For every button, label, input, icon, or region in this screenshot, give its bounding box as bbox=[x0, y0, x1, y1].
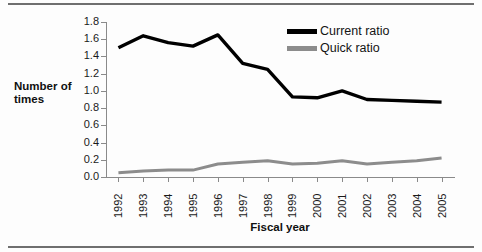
legend-item: Current ratio bbox=[287, 24, 427, 39]
y-tick-label: 1.4 bbox=[72, 50, 99, 61]
x-axis-line bbox=[106, 177, 455, 178]
x-tick-label: 1999 bbox=[286, 184, 299, 218]
legend-item: Quick ratio bbox=[287, 41, 427, 56]
x-tick-mark bbox=[218, 178, 219, 182]
x-tick-label: 2005 bbox=[436, 184, 449, 218]
x-tick-label: 2001 bbox=[336, 184, 349, 218]
y-tick-label: 1.2 bbox=[72, 68, 99, 79]
x-tick-mark bbox=[317, 178, 318, 182]
x-tick-mark bbox=[243, 178, 244, 182]
x-tick-label: 1995 bbox=[187, 184, 200, 218]
y-tick-label: 0.8 bbox=[72, 102, 99, 113]
y-axis-title: Number of times bbox=[14, 80, 76, 106]
y-tick-label-wrap: 1.2 bbox=[72, 68, 99, 79]
y-tick-label-wrap: 1.6 bbox=[72, 33, 99, 44]
x-tick-mark bbox=[367, 178, 368, 182]
x-tick-mark bbox=[118, 178, 119, 182]
figure-top-rule bbox=[8, 3, 474, 5]
x-tick-label: 2000 bbox=[311, 184, 324, 218]
x-tick-label: 2004 bbox=[411, 184, 424, 218]
legend-label: Quick ratio bbox=[320, 42, 380, 55]
x-tick-mark bbox=[442, 178, 443, 182]
chart-screenshot: Number of times 0.00.20.40.60.81.01.21.4… bbox=[0, 0, 482, 252]
x-tick-label: 2003 bbox=[386, 184, 399, 218]
x-tick-mark bbox=[268, 178, 269, 182]
series-line-quick-ratio bbox=[118, 158, 441, 173]
y-tick-label-wrap: 1.0 bbox=[72, 85, 99, 96]
current-ratio-swatch bbox=[287, 29, 317, 34]
x-tick-mark bbox=[292, 178, 293, 182]
x-tick-mark bbox=[417, 178, 418, 182]
figure-bottom-rule bbox=[8, 246, 474, 248]
y-tick-label: 0.0 bbox=[72, 171, 99, 182]
y-tick-label: 1.0 bbox=[72, 85, 99, 96]
legend-label: Current ratio bbox=[320, 25, 389, 38]
y-tick-label: 1.6 bbox=[72, 33, 99, 44]
x-tick-label: 1994 bbox=[162, 184, 175, 218]
x-tick-label: 1992 bbox=[112, 184, 125, 218]
x-tick-mark bbox=[392, 178, 393, 182]
y-tick-label: 0.2 bbox=[72, 154, 99, 165]
y-tick-label: 0.4 bbox=[72, 137, 99, 148]
quick-ratio-swatch bbox=[287, 46, 317, 51]
x-tick-mark bbox=[193, 178, 194, 182]
y-tick-label-wrap: 0.2 bbox=[72, 154, 99, 165]
chart-legend: Current ratioQuick ratio bbox=[287, 24, 427, 58]
x-tick-label: 1997 bbox=[237, 184, 250, 218]
y-tick-label: 0.6 bbox=[72, 119, 99, 130]
y-tick-label-wrap: 0.8 bbox=[72, 102, 99, 113]
x-axis-title: Fiscal year bbox=[106, 221, 454, 233]
x-tick-mark bbox=[143, 178, 144, 182]
x-tick-label: 1996 bbox=[212, 184, 225, 218]
y-tick-label: 1.8 bbox=[72, 16, 99, 27]
x-tick-label: 1993 bbox=[137, 184, 150, 218]
y-tick-label-wrap: 1.4 bbox=[72, 50, 99, 61]
x-tick-label: 2002 bbox=[361, 184, 374, 218]
y-tick-label-wrap: 0.4 bbox=[72, 137, 99, 148]
x-tick-mark bbox=[168, 178, 169, 182]
y-tick-label-wrap: 1.8 bbox=[72, 16, 99, 27]
x-tick-mark bbox=[342, 178, 343, 182]
y-tick-label-wrap: 0.6 bbox=[72, 119, 99, 130]
x-tick-label: 1998 bbox=[262, 184, 275, 218]
y-tick-label-wrap: 0.0 bbox=[72, 171, 99, 182]
